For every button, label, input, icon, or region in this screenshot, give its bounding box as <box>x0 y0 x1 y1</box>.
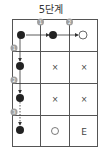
end-mark: E <box>81 127 87 137</box>
black-stone <box>16 126 24 134</box>
badge-label: 1 <box>12 45 15 51</box>
white-stone <box>79 31 87 39</box>
badge-label: 1 <box>39 19 42 25</box>
x-mark: × <box>52 63 59 72</box>
left-badges: 1 2 3 <box>11 45 18 116</box>
badge-label: 3 <box>12 109 15 115</box>
black-stone <box>49 31 57 39</box>
black-stone <box>16 94 24 102</box>
stones <box>16 31 87 134</box>
badge-label: 2 <box>12 77 15 83</box>
black-stone <box>17 31 25 39</box>
x-mark: × <box>52 95 59 104</box>
black-stone <box>16 62 24 70</box>
x-mark: × <box>81 63 88 72</box>
badge-label: 2 <box>68 19 71 25</box>
grid-diagram: 1 2 1 2 3 × × × × E <box>0 0 102 150</box>
empty-circle-mark <box>52 128 59 135</box>
x-mark: × <box>81 95 88 104</box>
